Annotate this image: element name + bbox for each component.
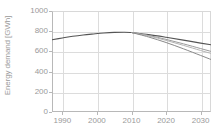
- series-container: [52, 11, 211, 112]
- y-tick-label: 600: [14, 47, 48, 55]
- x-tick-label: 2030: [181, 117, 221, 125]
- y-tick-label: 800: [14, 27, 48, 35]
- line-series-scenario-low: [132, 33, 212, 60]
- line-series-historical: [52, 32, 132, 40]
- y-tick-label: 1000: [14, 7, 48, 15]
- line-series-svg: [52, 11, 211, 112]
- x-tick-mark: [166, 112, 167, 115]
- energy-demand-chart: Energy demand [GWh] 02004006008001000 19…: [0, 0, 222, 139]
- x-tick-mark: [97, 112, 98, 115]
- y-tick-label: 400: [14, 68, 48, 76]
- x-tick-mark: [62, 112, 63, 115]
- x-tick-mark: [201, 112, 202, 115]
- y-tick-label: 0: [14, 108, 48, 116]
- x-tick-mark: [132, 112, 133, 115]
- y-axis-title: Energy demand [GWh]: [1, 0, 15, 125]
- y-tick-label: 200: [14, 88, 48, 96]
- y-tick-mark: [49, 112, 52, 113]
